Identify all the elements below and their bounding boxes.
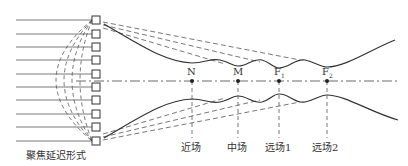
point-n-label: N [187,66,196,77]
caption: 聚焦延迟形式 [26,147,86,162]
transducer-array [92,16,100,145]
beam-focus-diagram [0,0,408,166]
mid-field-label: 中场 [227,139,247,154]
point-f1-label: F1 [274,66,285,79]
point-m-label: M [233,66,243,77]
field-markers [192,81,327,138]
input-lines [16,20,92,141]
delay-arcs [56,20,92,141]
point-f2-label: F2 [322,66,333,79]
far-field-2-label: 远场2 [312,139,338,154]
near-field-label: 近场 [181,139,201,154]
far-field-1-label: 远场1 [265,139,291,154]
